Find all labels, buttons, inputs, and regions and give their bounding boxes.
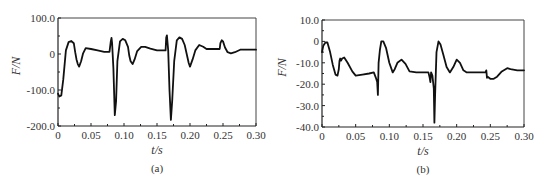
y-tick-label: 0 bbox=[50, 48, 56, 60]
force-curve bbox=[58, 35, 256, 120]
x-axis-label: t/s bbox=[151, 143, 163, 157]
x-tick-label: 0.30 bbox=[246, 129, 266, 141]
x-tick-label: 0.05 bbox=[81, 129, 101, 141]
x-tick-label: 0.25 bbox=[213, 129, 233, 141]
y-tick-label: -20.0 bbox=[296, 78, 319, 90]
force-chart-a: 00.050.100.150.200.250.30100.00-100.0-20… bbox=[0, 0, 272, 188]
x-tick-label: 0.25 bbox=[481, 130, 501, 142]
chart-panel-b: 00.050.100.150.200.250.3010.00-10.0-20.0… bbox=[272, 0, 544, 188]
y-axis-label: F/N bbox=[275, 57, 289, 78]
y-tick-label: -40.0 bbox=[296, 121, 319, 133]
y-tick-label: 0 bbox=[314, 35, 320, 47]
force-chart-b: 00.050.100.150.200.250.3010.00-10.0-20.0… bbox=[272, 0, 544, 188]
y-tick-label: -100.0 bbox=[27, 84, 56, 96]
x-tick-label: 0.20 bbox=[180, 129, 200, 141]
figure-caption: (b) bbox=[417, 163, 430, 176]
figure-caption: (a) bbox=[151, 162, 164, 175]
x-tick-label: 0.05 bbox=[346, 130, 366, 142]
x-tick-label: 0.20 bbox=[447, 130, 467, 142]
force-curve bbox=[322, 41, 524, 122]
chart-panel-a: 00.050.100.150.200.250.30100.00-100.0-20… bbox=[0, 0, 272, 188]
y-tick-label: 10.0 bbox=[300, 14, 320, 26]
x-tick-label: 0 bbox=[319, 130, 325, 142]
y-tick-label: 100.0 bbox=[30, 12, 55, 24]
y-tick-label: -10.0 bbox=[296, 57, 319, 69]
x-tick-label: 0.15 bbox=[147, 129, 167, 141]
x-axis-label: t/s bbox=[417, 144, 429, 158]
x-tick-label: 0.30 bbox=[514, 130, 534, 142]
x-tick-label: 0.10 bbox=[114, 129, 134, 141]
y-axis-label: F/N bbox=[9, 56, 23, 77]
x-tick-label: 0.15 bbox=[413, 130, 433, 142]
x-tick-label: 0 bbox=[55, 129, 61, 141]
x-tick-label: 0.10 bbox=[380, 130, 400, 142]
y-tick-label: -30.0 bbox=[296, 100, 319, 112]
y-tick-label: -200.0 bbox=[27, 120, 56, 132]
